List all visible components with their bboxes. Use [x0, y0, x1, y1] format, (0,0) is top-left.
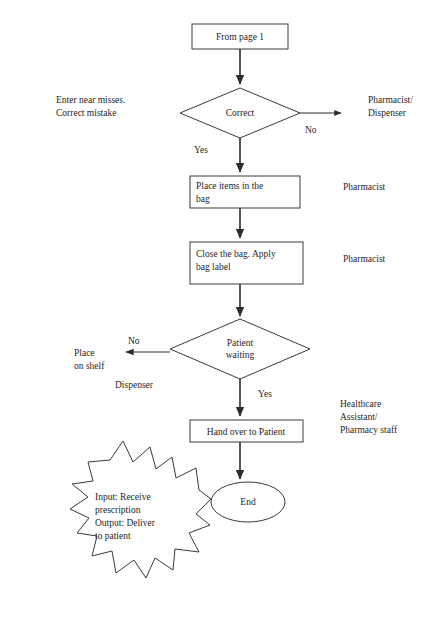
annotation-near-misses-line1: Enter near misses. — [56, 95, 125, 105]
role-pharmacist-dispenser-line1: Pharmacist/ — [368, 95, 413, 105]
node-close-bag-line1: Close the bag. Apply — [196, 249, 276, 259]
role-healthcare-line2: Assistant/ — [340, 412, 378, 422]
node-starburst-line1: Input: Receive — [95, 492, 151, 502]
node-patient-waiting-line2: waiting — [226, 350, 255, 360]
flowchart-page: From page 1 Correct No Yes Place items i… — [0, 0, 437, 632]
edge-label-correct-yes: Yes — [194, 145, 208, 155]
node-correct-label: Correct — [226, 108, 255, 118]
node-starburst-input-output[interactable] — [70, 441, 211, 578]
node-from-page-1-label: From page 1 — [216, 32, 264, 42]
node-place-items-line2: bag — [196, 194, 210, 204]
role-pharmacist-dispenser-line2: Dispenser — [368, 108, 407, 118]
role-dispenser-shelf: Dispenser — [115, 380, 154, 390]
edge-label-patient-yes: Yes — [258, 389, 272, 399]
node-patient-waiting-decision[interactable] — [170, 319, 310, 379]
role-pharmacist-close-bag: Pharmacist — [343, 254, 386, 264]
flowchart-canvas: From page 1 Correct No Yes Place items i… — [0, 0, 437, 632]
role-healthcare-line3: Pharmacy staff — [340, 425, 398, 435]
edge-label-correct-no: No — [305, 125, 317, 135]
node-patient-waiting-line1: Patient — [227, 338, 254, 348]
annotation-place-on-shelf-line2: on shelf — [74, 361, 105, 371]
node-starburst-line2: prescription — [95, 505, 141, 515]
node-hand-over-label: Hand over to Patient — [207, 427, 286, 437]
edge-label-patient-no: No — [128, 336, 140, 346]
role-healthcare-line1: Healthcare — [340, 399, 381, 409]
node-starburst-line3: Output: Deliver — [95, 518, 156, 528]
annotation-near-misses-line2: Correct mistake — [56, 108, 116, 118]
annotation-place-on-shelf-line1: Place — [74, 348, 95, 358]
node-close-bag-line2: bag label — [196, 262, 231, 272]
role-pharmacist-place-items: Pharmacist — [343, 182, 386, 192]
node-end-label: End — [240, 497, 256, 507]
node-place-items-line1: Place items in the — [196, 181, 263, 191]
node-starburst-line4: to patient — [95, 531, 131, 541]
